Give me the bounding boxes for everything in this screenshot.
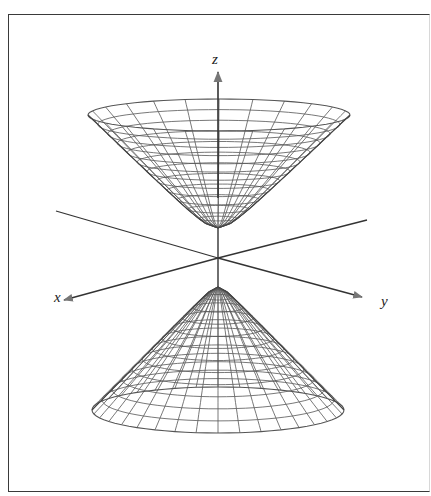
lower-sheet-mesh <box>92 287 344 433</box>
x-axis-label: x <box>53 289 61 305</box>
upper-sheet-mesh <box>88 99 350 228</box>
z-axis-label: z <box>211 51 218 67</box>
y-axis-label: y <box>379 293 388 309</box>
back-axes <box>56 211 367 287</box>
hyperboloid-diagram: z x y <box>0 0 431 496</box>
